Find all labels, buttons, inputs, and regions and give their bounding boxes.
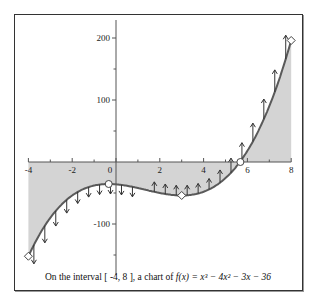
chart-plot: -4-202468-100100200 <box>0 0 316 306</box>
caption-prefix: On the interval <box>45 272 102 282</box>
caption-function: f(x) = x³ − 4x² − 3x − 36 <box>176 272 271 282</box>
diamond-marker <box>24 252 32 260</box>
x-tick-label: 0 <box>108 165 113 175</box>
x-tick-label: 8 <box>289 165 294 175</box>
y-tick-label: 200 <box>97 33 111 43</box>
x-tick-label: 4 <box>201 165 206 175</box>
circle-marker <box>105 181 112 188</box>
x-tick-label: -4 <box>25 165 33 175</box>
x-tick-label: 2 <box>158 165 163 175</box>
diamond-marker <box>287 36 295 44</box>
chart-caption: On the interval [ -4, 8 ], a chart of f(… <box>0 272 316 282</box>
caption-middle: , a chart of <box>133 272 174 282</box>
shaded-area <box>28 41 291 257</box>
circle-marker <box>237 159 244 166</box>
caption-interval: [ -4, 8 ] <box>104 272 133 282</box>
x-tick-label: -2 <box>68 165 76 175</box>
y-tick-label: -100 <box>94 219 111 229</box>
x-tick-label: 6 <box>245 165 250 175</box>
y-tick-label: 100 <box>97 95 111 105</box>
